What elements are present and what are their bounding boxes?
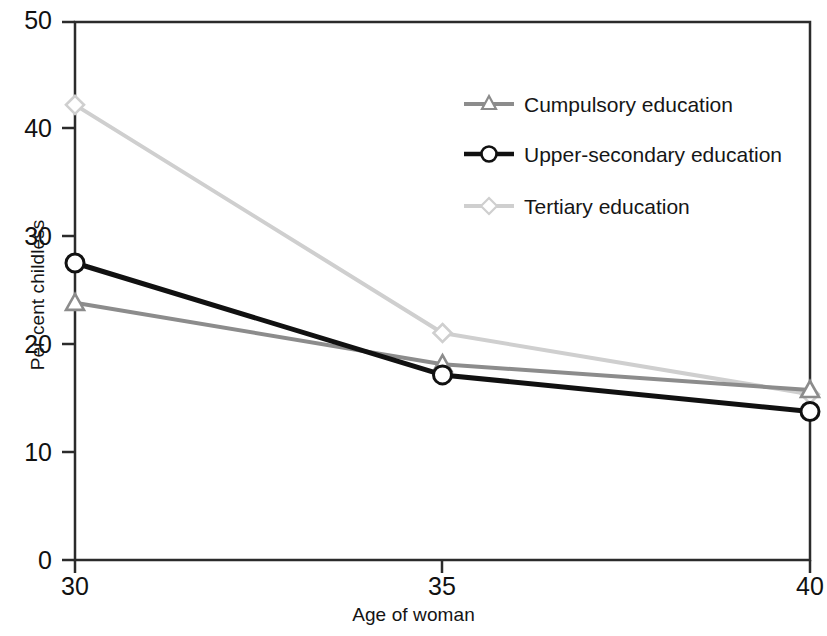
y-axis-title: Per cent childless <box>27 195 49 395</box>
legend-item-upper-secondary[interactable]: Upper-secondary education <box>524 143 782 167</box>
legend-marker-compulsory-icon <box>464 96 514 109</box>
data-point-marker <box>801 403 819 421</box>
x-tick-label-30: 30 <box>35 572 115 601</box>
legend-item-compulsory[interactable]: Cumpulsory education <box>524 93 733 117</box>
legend-marker-column <box>462 92 522 242</box>
x-axis-title: Age of woman <box>0 604 827 626</box>
legend-item-tertiary[interactable]: Tertiary education <box>524 195 690 219</box>
x-tick-label-40: 40 <box>770 572 827 601</box>
y-tick-label-10: 10 <box>0 438 52 467</box>
data-point-marker <box>66 254 84 272</box>
y-tick-label-40: 40 <box>0 114 52 143</box>
data-point-marker <box>434 324 452 342</box>
legend-marker-upper-secondary-icon <box>464 147 514 162</box>
data-point-marker <box>434 366 452 384</box>
legend-marker-tertiary-icon <box>464 198 514 214</box>
y-tick-label-50: 50 <box>0 6 52 35</box>
x-tick-label-35: 35 <box>402 572 482 601</box>
y-tick-label-0: 0 <box>0 546 52 575</box>
chart-figure: 0 10 20 30 40 50 30 35 40 Per cent child… <box>0 0 827 636</box>
